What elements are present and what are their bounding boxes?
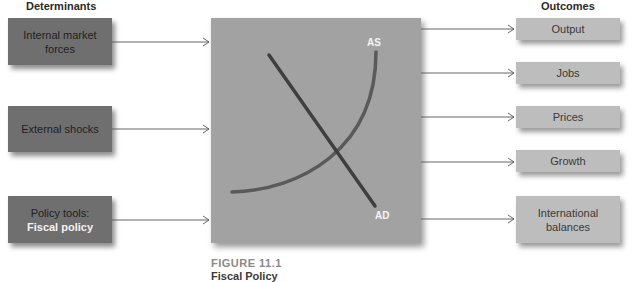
as-label: AS (367, 37, 381, 48)
ad-label: AD (375, 210, 389, 221)
as-curve (232, 52, 376, 192)
figure-number: FIGURE 11.1 (211, 257, 282, 269)
figure-title: Fiscal Policy (211, 270, 278, 282)
